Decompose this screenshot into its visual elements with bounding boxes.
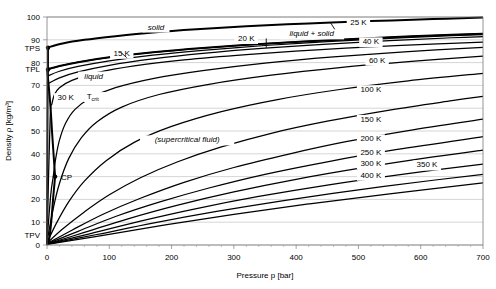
x-tick-label: 100 [103, 253, 117, 262]
x-tick-label: 700 [476, 253, 490, 262]
marker-triple-point-solid [46, 46, 50, 50]
y-tick-label-tps: TPS [24, 44, 40, 53]
y-tick-label: 60 [31, 104, 40, 113]
region-label-supercritical-fluid: (supercritical fluid) [155, 135, 220, 144]
isotherm-label-20-k: 20 K [238, 34, 255, 43]
x-tick-label: 600 [414, 253, 428, 262]
isotherm-label-40-k: 40 K [363, 37, 380, 46]
y-tick-label: 10 [31, 218, 40, 227]
isotherm-label-250-k: 250 K [360, 148, 382, 157]
isotherm-label-60-k: 60 K [369, 56, 386, 65]
marker-critical-point [53, 174, 57, 178]
region-label-liquid: liquid [84, 72, 103, 81]
x-tick-label: 400 [289, 253, 303, 262]
x-tick-label: 200 [165, 253, 179, 262]
isotherm-label-300-k: 300 K [360, 159, 382, 168]
chart-svg: solidliquid + solidliquid(supercritical … [0, 0, 496, 289]
y-tick-label: 0 [36, 241, 41, 250]
isotherm-label-150-k: 150 K [360, 115, 382, 124]
isotherm-label-400-k: 400 K [360, 171, 382, 180]
isotherm-label-100-k: 100 K [360, 85, 382, 94]
density-pressure-phase-diagram: solidliquid + solidliquid(supercritical … [0, 0, 496, 289]
isotherm-label-25-k: 25 K [350, 18, 367, 27]
y-tick-label-tpl: TPL [25, 65, 40, 74]
isotherm-label-350-k: 350 K [416, 160, 438, 169]
region-label-liquid-plus-solid: liquid + solid [290, 29, 335, 38]
region-label-solid: solid [148, 23, 165, 32]
y-tick-label: 100 [27, 13, 41, 22]
y-tick-label: 40 [31, 150, 40, 159]
y-axis-title: Density ρ [kg/m³] [4, 101, 13, 161]
x-tick-label: 300 [227, 253, 241, 262]
y-tick-label: 30 [31, 173, 40, 182]
x-axis-title: Pressure p [bar] [237, 271, 294, 280]
isotherm-label-30-k: 30 K [57, 93, 74, 102]
marker-triple-point-liquid [46, 67, 50, 71]
marker-label-critical-point: CP [61, 173, 72, 182]
y-tick-label: 20 [31, 195, 40, 204]
y-tick-label: 50 [31, 127, 40, 136]
y-tick-label-tpv: TPV [24, 231, 40, 240]
x-tick-label: 0 [45, 253, 50, 262]
x-tick-label: 500 [352, 253, 366, 262]
y-tick-label: 70 [31, 81, 40, 90]
isotherm-label-200-k: 200 K [360, 134, 382, 143]
